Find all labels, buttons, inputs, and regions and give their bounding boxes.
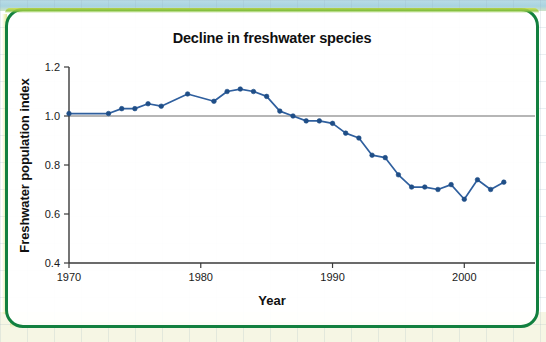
data-point (212, 99, 217, 104)
series-line (69, 89, 504, 199)
y-tick-label: 0.8 (45, 159, 60, 171)
data-point (383, 155, 388, 160)
y-tick-label: 1.0 (45, 110, 60, 122)
data-point (370, 153, 375, 158)
data-point (225, 89, 230, 94)
data-point (436, 187, 441, 192)
data-point (422, 185, 427, 190)
data-point (67, 111, 72, 116)
data-point (475, 177, 480, 182)
y-tick-label: 0.6 (45, 208, 60, 220)
data-point (185, 92, 190, 97)
data-point (133, 106, 138, 111)
y-tick-label: 0.4 (45, 257, 60, 269)
data-point (106, 111, 111, 116)
data-point (119, 106, 124, 111)
data-point (330, 121, 335, 126)
x-tick-label: 1980 (189, 271, 213, 283)
data-point (409, 185, 414, 190)
y-tick-label: 1.2 (45, 61, 60, 73)
page-background: Decline in freshwater species Freshwater… (0, 0, 546, 342)
data-point (462, 197, 467, 202)
data-point (264, 94, 269, 99)
data-point (317, 119, 322, 124)
data-point (291, 114, 296, 119)
data-point (159, 104, 164, 109)
data-point (449, 182, 454, 187)
data-point (278, 109, 283, 114)
data-point (343, 131, 348, 136)
x-tick-label: 1990 (320, 271, 344, 283)
data-point (251, 89, 256, 94)
plot-area: 0.40.60.81.01.21970198019902000 (5, 8, 539, 328)
data-point (238, 87, 243, 92)
chart-figure: Decline in freshwater species Freshwater… (5, 8, 539, 328)
data-point (146, 101, 151, 106)
data-point (488, 187, 493, 192)
data-point (304, 119, 309, 124)
data-point (502, 180, 507, 185)
x-tick-label: 2000 (452, 271, 476, 283)
x-tick-label: 1970 (57, 271, 81, 283)
data-point (357, 136, 362, 141)
data-point (396, 173, 401, 178)
